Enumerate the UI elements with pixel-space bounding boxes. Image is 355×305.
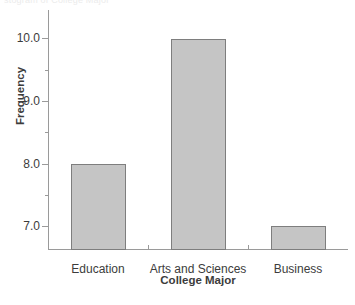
y-tick-label: 9.0 bbox=[23, 94, 40, 108]
y-tick-minor bbox=[45, 132, 48, 133]
plot-area: 7.08.09.010.0EducationArts and SciencesB… bbox=[48, 10, 348, 250]
y-tick-label: 10.0 bbox=[17, 31, 40, 45]
y-tick-label: 7.0 bbox=[23, 219, 40, 233]
x-category-separator bbox=[48, 245, 49, 250]
bar-education bbox=[71, 164, 126, 250]
y-tick-minor bbox=[45, 195, 48, 196]
y-tick-major bbox=[42, 38, 48, 39]
y-tick-major bbox=[42, 164, 48, 165]
bar-business bbox=[271, 226, 326, 250]
y-tick-major bbox=[42, 101, 48, 102]
y-tick-major bbox=[42, 226, 48, 227]
bar-chart: stogram of College Major Frequency 7.08.… bbox=[0, 0, 355, 305]
x-category-separator bbox=[248, 245, 249, 250]
x-category-separator bbox=[148, 245, 149, 250]
y-tick-minor bbox=[45, 70, 48, 71]
x-axis-title: College Major bbox=[48, 274, 348, 286]
y-tick-label: 8.0 bbox=[23, 157, 40, 171]
y-axis-line bbox=[48, 10, 49, 250]
bar-arts-and-sciences bbox=[171, 39, 226, 250]
clipped-caption-text: stogram of College Major bbox=[4, 0, 184, 5]
